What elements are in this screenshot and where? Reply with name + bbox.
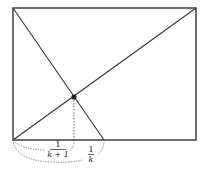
long-segment-label: 1 k bbox=[88, 145, 94, 164]
short-label-numerator: 1 bbox=[55, 140, 60, 149]
short-segment-arc bbox=[13, 140, 74, 150]
short-segment-label: 1 k + 1 bbox=[47, 140, 69, 159]
diagram-canvas: 1 k + 1 1 k bbox=[0, 0, 205, 174]
steep-diagonal bbox=[13, 8, 104, 140]
main-diagonal bbox=[13, 8, 196, 140]
long-label-denominator: k bbox=[89, 155, 94, 164]
intersection-point bbox=[71, 94, 76, 99]
short-label-denominator: k + 1 bbox=[47, 150, 69, 159]
long-label-numerator: 1 bbox=[88, 145, 93, 154]
